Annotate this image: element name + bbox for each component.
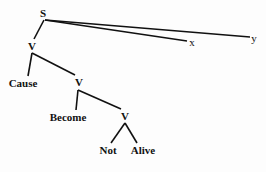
node-v3: V: [121, 111, 129, 122]
edge-v1-v2: [32, 53, 75, 75]
edge-s-v1: [34, 20, 44, 39]
node-become: Become: [50, 112, 87, 123]
edge-v2-v3: [78, 90, 121, 109]
syntax-tree-diagram: S x y V Cause V Become V Not Alive: [0, 0, 266, 172]
node-alive: Alive: [131, 145, 155, 156]
node-x: x: [189, 37, 195, 48]
node-v1: V: [28, 41, 36, 52]
edge-v3-alive: [125, 123, 137, 143]
node-cause: Cause: [9, 78, 38, 89]
node-s: S: [40, 8, 46, 19]
node-not: Not: [99, 145, 116, 156]
edge-v1-cause: [28, 53, 32, 76]
edge-v3-not: [111, 123, 125, 143]
node-v2: V: [75, 77, 83, 88]
edge-v2-become: [76, 90, 78, 110]
node-y: y: [251, 33, 257, 44]
